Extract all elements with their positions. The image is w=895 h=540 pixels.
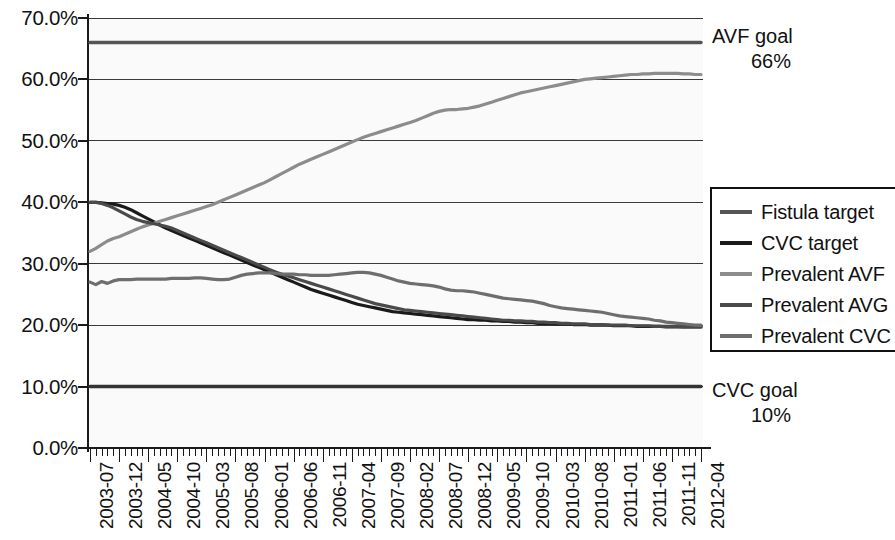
x-axis-tick xyxy=(410,449,411,462)
x-axis-tick xyxy=(701,449,702,462)
x-axis-tick xyxy=(369,449,370,456)
cvc-goal-title: CVC goal xyxy=(712,379,798,401)
x-axis-tick xyxy=(556,449,557,462)
x-axis-tick xyxy=(585,449,586,462)
y-axis-tick xyxy=(78,78,88,80)
legend-label: Prevalent CVC xyxy=(761,326,891,346)
legend-color-swatch xyxy=(720,241,752,245)
x-axis-tick xyxy=(509,449,510,456)
y-axis-tick xyxy=(78,201,88,203)
x-axis-tick xyxy=(340,449,341,456)
legend-label: CVC target xyxy=(761,233,858,253)
y-axis-tick-label: 10.0% xyxy=(2,377,78,398)
x-axis-tick xyxy=(637,449,638,456)
y-axis-tick-label: 0.0% xyxy=(2,438,78,459)
series-prevalent-cvc xyxy=(90,272,701,325)
x-axis-tick xyxy=(270,449,271,456)
x-axis-tick xyxy=(102,449,103,456)
x-axis-tick-label: 2010-03 xyxy=(563,462,582,529)
x-axis-tick xyxy=(259,449,260,456)
x-axis-tick xyxy=(643,449,644,462)
x-axis-tick-label: 2011-11 xyxy=(679,462,698,526)
x-axis-tick xyxy=(329,449,330,456)
x-axis-tick xyxy=(654,449,655,456)
x-axis-tick xyxy=(294,449,295,462)
y-axis-tick-label: 40.0% xyxy=(2,192,78,213)
avf-goal-annotation: AVF goal 66% xyxy=(712,24,872,74)
x-axis-tick xyxy=(486,449,487,456)
x-axis-tick xyxy=(561,449,562,456)
x-axis-tick-label: 2005-03 xyxy=(213,462,232,529)
x-axis-tick xyxy=(323,449,324,462)
x-axis-tick-label: 2003-12 xyxy=(126,462,145,529)
x-axis-tick xyxy=(614,449,615,462)
x-axis-tick xyxy=(241,449,242,456)
x-axis-tick xyxy=(608,449,609,456)
x-axis-tick-label: 2011-06 xyxy=(650,462,669,528)
cvc-goal-value: 10% xyxy=(712,403,830,428)
x-axis-tick xyxy=(107,449,108,456)
x-axis-tick-label: 2011-01 xyxy=(621,462,640,528)
y-axis-tick xyxy=(78,386,88,388)
x-axis-tick xyxy=(96,449,97,456)
y-axis-tick-label: 50.0% xyxy=(2,131,78,152)
x-axis-tick xyxy=(253,449,254,456)
x-axis-tick xyxy=(620,449,621,456)
y-axis-tick xyxy=(78,17,88,19)
x-axis-tick xyxy=(480,449,481,456)
avf-goal-value: 66% xyxy=(712,49,830,74)
x-axis-tick xyxy=(148,449,149,462)
legend-item: Prevalent CVC xyxy=(720,320,895,351)
legend-color-swatch xyxy=(720,303,752,307)
x-axis-tick-label: 2006-11 xyxy=(330,462,349,528)
x-axis-tick-label: 2005-08 xyxy=(242,462,261,529)
x-axis-tick xyxy=(428,449,429,456)
x-axis-tick-label: 2009-10 xyxy=(533,462,552,529)
x-axis-tick-label: 2004-10 xyxy=(184,462,203,529)
x-axis-tick xyxy=(201,449,202,456)
y-axis-tick xyxy=(78,324,88,326)
x-axis-tick xyxy=(422,449,423,456)
x-axis-tick xyxy=(171,449,172,456)
x-axis-tick xyxy=(137,449,138,456)
x-axis-tick xyxy=(247,449,248,456)
cvc-goal-annotation: CVC goal 10% xyxy=(712,378,872,428)
series-prevalent-avf xyxy=(90,73,701,251)
x-axis-tick xyxy=(235,449,236,462)
x-axis-tick xyxy=(166,449,167,456)
chart-legend: Fistula targetCVC targetPrevalent AVFPre… xyxy=(710,187,895,352)
x-axis-tick-label: 2004-05 xyxy=(155,462,174,529)
x-axis-tick xyxy=(666,449,667,456)
y-axis-tick-label: 30.0% xyxy=(2,254,78,275)
x-axis-tick-label: 2006-06 xyxy=(301,462,320,529)
x-axis-tick xyxy=(526,449,527,462)
x-axis-tick xyxy=(468,449,469,462)
x-axis-tick xyxy=(451,449,452,456)
x-axis-tick xyxy=(206,449,207,462)
y-axis-tick-labels: 70.0%60.0%50.0%40.0%30.0%20.0%10.0%0.0% xyxy=(0,0,78,470)
x-axis-tick xyxy=(532,449,533,456)
x-axis-tick xyxy=(550,449,551,456)
x-axis-tick xyxy=(352,449,353,462)
y-axis-tick-label: 70.0% xyxy=(2,8,78,29)
x-axis-tick xyxy=(398,449,399,456)
x-axis-tick xyxy=(218,449,219,456)
x-axis-tick-labels: 2003-072003-122004-052004-102005-032005-… xyxy=(88,462,703,540)
x-axis-tick xyxy=(288,449,289,456)
x-axis-tick xyxy=(515,449,516,456)
legend-item: Prevalent AVG xyxy=(720,289,895,320)
y-axis-tick xyxy=(78,140,88,142)
x-axis-tick-label: 2007-04 xyxy=(359,462,378,529)
legend-color-swatch xyxy=(720,334,752,338)
x-axis-tick xyxy=(265,449,266,462)
x-axis-tick-label: 2006-01 xyxy=(272,462,291,529)
x-axis-tick xyxy=(131,449,132,456)
x-axis-tick xyxy=(503,449,504,456)
legend-item: Prevalent AVF xyxy=(720,258,895,289)
x-axis-tick xyxy=(195,449,196,456)
x-axis-tick-label: 2008-12 xyxy=(475,462,494,529)
avf-goal-title: AVF goal xyxy=(712,25,793,47)
legend-color-swatch xyxy=(720,210,752,214)
legend-item: Fistula target xyxy=(720,196,895,227)
